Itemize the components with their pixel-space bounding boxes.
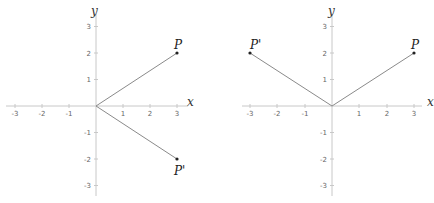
right-plot: -3 -2 -1 1 2 3 3 2 1 -1 -2 -3 x y P' P bbox=[242, 4, 434, 196]
x-tick-label: -2 bbox=[39, 110, 46, 118]
x-tick-label: -3 bbox=[12, 110, 19, 118]
y-axis-label: y bbox=[327, 4, 335, 18]
y-tick-label: 1 bbox=[323, 76, 327, 84]
point-p-label: P bbox=[410, 38, 420, 52]
segment-o-p-prime bbox=[96, 106, 177, 159]
point-p-prime-label: P' bbox=[173, 164, 185, 178]
y-tick-label: 3 bbox=[87, 23, 91, 31]
x-tick-label: 2 bbox=[385, 110, 389, 118]
x-tick-label: 2 bbox=[148, 110, 152, 118]
y-tick-label: 2 bbox=[323, 50, 327, 58]
x-tick-label: 3 bbox=[175, 110, 179, 118]
y-tick-label: 3 bbox=[323, 23, 327, 31]
left-plot: -3 -2 -1 1 2 3 3 2 1 -1 -2 -3 x y P P' bbox=[6, 4, 194, 196]
x-tick-label: 1 bbox=[121, 110, 125, 118]
y-tick-label: 2 bbox=[87, 50, 91, 58]
y-tick-label: -2 bbox=[84, 156, 91, 164]
y-tick-label: 1 bbox=[87, 76, 91, 84]
x-axis-label: x bbox=[427, 95, 434, 109]
y-tick-label: -3 bbox=[84, 182, 91, 190]
x-tick-label: -1 bbox=[302, 110, 309, 118]
y-tick-label: -2 bbox=[320, 156, 327, 164]
point-p-prime bbox=[175, 157, 178, 160]
y-tick-label: -1 bbox=[320, 129, 327, 137]
segment-o-p bbox=[96, 53, 177, 106]
diagram-canvas: -3 -2 -1 1 2 3 3 2 1 -1 -2 -3 x y P P' bbox=[0, 0, 434, 203]
x-tick-label: -1 bbox=[66, 110, 73, 118]
point-p-label: P bbox=[173, 38, 183, 52]
y-axis-label: y bbox=[90, 4, 98, 18]
point-p-prime-label: P' bbox=[249, 38, 261, 52]
x-tick-label: -2 bbox=[274, 110, 281, 118]
x-tick-label: 1 bbox=[357, 110, 361, 118]
segment-o-p-prime bbox=[250, 53, 332, 106]
y-tick-label: -1 bbox=[84, 129, 91, 137]
x-tick-label: 3 bbox=[412, 110, 416, 118]
y-tick-label: -3 bbox=[320, 182, 327, 190]
x-axis-label: x bbox=[187, 95, 194, 109]
segment-o-p bbox=[332, 53, 414, 106]
x-tick-label: -3 bbox=[247, 110, 254, 118]
